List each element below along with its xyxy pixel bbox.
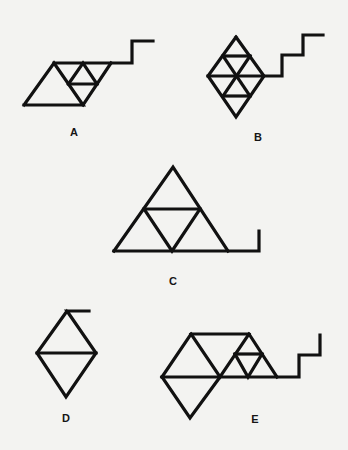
label-e: E	[251, 414, 258, 425]
figure-a[interactable]	[24, 41, 153, 105]
label-d: D	[62, 413, 70, 424]
figure-e[interactable]	[162, 334, 320, 418]
figure-options-diagram: A B C D E	[0, 0, 348, 450]
figure-stroke	[162, 377, 220, 418]
figure-stroke	[235, 354, 262, 377]
label-a: A	[70, 127, 78, 138]
figures-canvas	[0, 0, 348, 450]
figure-stroke	[54, 41, 153, 63]
label-c: C	[169, 276, 177, 287]
figure-stroke	[144, 209, 200, 251]
figure-stroke	[69, 63, 98, 84]
figure-stroke	[114, 231, 259, 251]
figure-d[interactable]	[37, 311, 96, 397]
label-b: B	[254, 132, 262, 143]
figure-c[interactable]	[114, 167, 259, 251]
figure-b[interactable]	[208, 35, 323, 117]
